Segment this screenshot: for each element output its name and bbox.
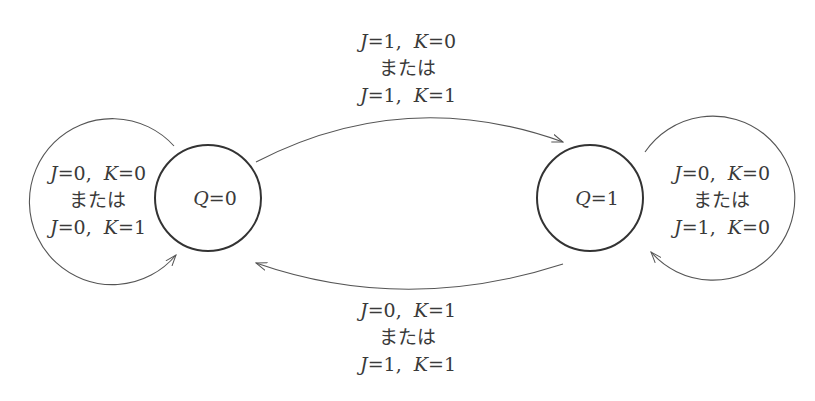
j-value: 0 xyxy=(74,216,86,238)
k-value: 0 xyxy=(444,30,456,52)
k-value: 1 xyxy=(444,84,456,106)
j-value: 1 xyxy=(384,84,396,106)
k-value: 0 xyxy=(758,216,770,238)
j-value: 0 xyxy=(74,162,86,184)
state-var: Q xyxy=(575,187,591,209)
edge-q1-to-q0 xyxy=(256,263,563,289)
j-value: 1 xyxy=(698,216,710,238)
edge-q0-to-q1 xyxy=(256,118,563,162)
label-self-loop-q1: J=0, K=0 または J=1, K=0 xyxy=(674,160,770,241)
k-value: 1 xyxy=(134,216,146,238)
connector-text: または xyxy=(674,187,770,214)
connector-text: または xyxy=(360,324,456,351)
label-edge-q0-to-q1: J=1, K=0 または J=1, K=1 xyxy=(360,28,456,109)
k-value: 0 xyxy=(134,162,146,184)
k-value: 1 xyxy=(444,299,456,321)
state-diagram: Q=0 Q=1 J=0, K=0 または J=0, K=1 J=1, K=0 ま… xyxy=(0,0,815,401)
connector-text: または xyxy=(50,187,146,214)
connector-text: または xyxy=(360,55,456,82)
j-value: 0 xyxy=(698,162,710,184)
state-value: 1 xyxy=(607,187,619,209)
label-self-loop-q0: J=0, K=0 または J=0, K=1 xyxy=(50,160,146,241)
label-edge-q1-to-q0: J=0, K=1 または J=1, K=1 xyxy=(360,297,456,378)
state-var: Q xyxy=(193,187,209,209)
j-value: 0 xyxy=(384,299,396,321)
j-value: 1 xyxy=(384,353,396,375)
state-q0-label: Q=0 xyxy=(193,187,237,209)
k-value: 0 xyxy=(758,162,770,184)
k-value: 1 xyxy=(444,353,456,375)
state-value: 0 xyxy=(225,187,237,209)
state-q1-label: Q=1 xyxy=(575,187,619,209)
j-value: 1 xyxy=(384,30,396,52)
